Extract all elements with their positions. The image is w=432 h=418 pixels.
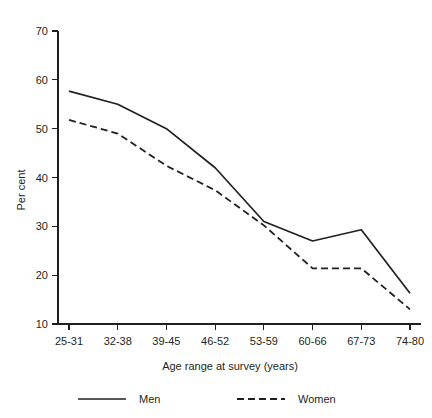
x-tick-label: 39-45 <box>152 335 180 347</box>
y-tick-label: 60 <box>36 74 48 86</box>
series-line-men <box>69 91 410 293</box>
x-axis: 25-3132-3839-4546-5253-5960-6667-7374-80 <box>55 324 424 347</box>
line-chart: 10203040506070 25-3132-3839-4546-5253-59… <box>0 0 432 418</box>
legend-label-men: Men <box>139 393 160 405</box>
legend-label-women: Women <box>298 393 336 405</box>
x-tick-label: 46-52 <box>201 335 229 347</box>
data-series-group <box>69 91 410 309</box>
y-tick-label: 10 <box>36 318 48 330</box>
chart-legend: MenWomen <box>78 393 336 405</box>
y-axis: 10203040506070 <box>36 25 58 330</box>
chart-container: 10203040506070 25-3132-3839-4546-5253-59… <box>0 0 432 418</box>
y-tick-label: 50 <box>36 123 48 135</box>
x-tick-label: 60-66 <box>299 335 327 347</box>
y-tick-label: 30 <box>36 220 48 232</box>
x-tick-label: 25-31 <box>55 335 83 347</box>
x-tick-label: 53-59 <box>250 335 278 347</box>
y-axis-title: Per cent <box>15 170 27 211</box>
x-tick-label: 32-38 <box>104 335 132 347</box>
y-tick-label: 40 <box>36 172 48 184</box>
series-line-women <box>69 120 410 309</box>
x-tick-label: 67-73 <box>347 335 375 347</box>
y-tick-label: 70 <box>36 25 48 37</box>
y-tick-label: 20 <box>36 269 48 281</box>
x-tick-label: 74-80 <box>396 335 424 347</box>
x-axis-title: Age range at survey (years) <box>162 360 298 372</box>
